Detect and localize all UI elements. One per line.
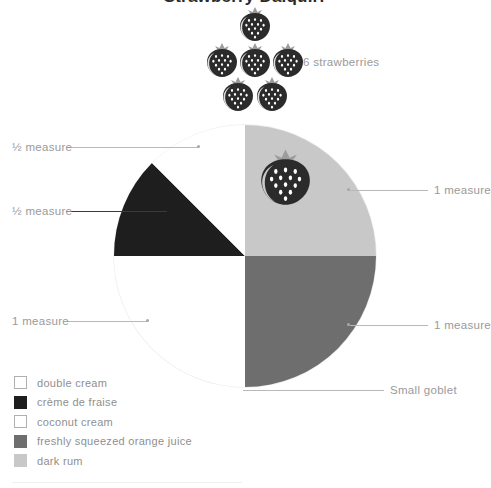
legend-label-double-cream: double cream <box>37 377 107 389</box>
legend-item-orange-juice[interactable]: freshly squeezed orange juice <box>14 433 192 450</box>
callout-dark-rum: 1 measure <box>434 184 491 196</box>
legend: double cream crème de fraise coconut cre… <box>14 374 192 472</box>
legend-item-dark-rum[interactable]: dark rum <box>14 452 192 469</box>
callout-creme-de-fraise: ½ measure <box>12 205 72 217</box>
leader-line-orange-juice <box>350 325 428 326</box>
legend-swatch-double-cream <box>14 376 27 389</box>
legend-label-dark-rum: dark rum <box>37 455 83 467</box>
leader-line-glassware <box>243 390 384 391</box>
legend-swatch-creme-de-fraise <box>14 396 27 409</box>
legend-swatch-coconut-cream <box>14 415 27 428</box>
leader-dot-double-cream <box>146 319 149 322</box>
legend-swatch-orange-juice <box>14 435 27 448</box>
leader-line-double-cream <box>66 321 148 322</box>
legend-label-creme-de-fraise: crème de fraise <box>37 396 117 408</box>
legend-label-coconut-cream: coconut cream <box>37 416 113 428</box>
legend-swatch-dark-rum <box>14 454 27 467</box>
legend-item-coconut-cream[interactable]: coconut cream <box>14 413 192 430</box>
leader-dot-dark-rum <box>347 188 350 191</box>
callout-double-cream: 1 measure <box>12 315 69 327</box>
leader-dot-coconut-cream <box>197 145 200 148</box>
leader-dot-orange-juice <box>347 323 350 326</box>
leader-line-dark-rum <box>349 190 428 191</box>
legend-label-orange-juice: freshly squeezed orange juice <box>37 435 192 447</box>
legend-item-creme-de-fraise[interactable]: crème de fraise <box>14 394 192 411</box>
legend-item-double-cream[interactable]: double cream <box>14 374 192 391</box>
footer-divider <box>12 482 242 483</box>
callout-orange-juice: 1 measure <box>434 319 491 331</box>
pie-slice-orange-juice <box>245 256 376 387</box>
leader-line-coconut-cream <box>66 147 199 148</box>
callout-glassware: Small goblet <box>390 384 457 396</box>
leader-line-creme-de-fraise <box>66 211 167 212</box>
callout-coconut-cream: ½ measure <box>12 141 72 153</box>
